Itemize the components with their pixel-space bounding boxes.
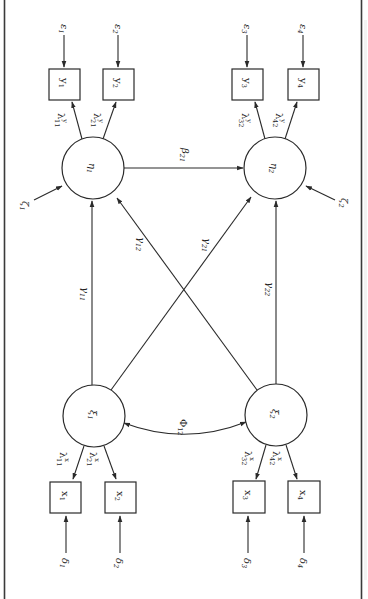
svg-text:λx21: λx21 bbox=[85, 452, 101, 466]
svg-text:δ2: δ2 bbox=[112, 558, 125, 568]
label-lambda-x11: λx11 bbox=[55, 452, 71, 466]
arrow-eta1-y1 bbox=[72, 102, 82, 139]
label-lambda-y11: λy11 bbox=[53, 113, 69, 127]
label-d1: δ1 bbox=[58, 558, 71, 568]
label-d3: δ3 bbox=[240, 558, 253, 568]
error-arrows-epsilon bbox=[64, 35, 303, 67]
arrow-xi2-x3 bbox=[256, 445, 266, 479]
arrow-zeta1-eta1 bbox=[34, 186, 62, 200]
label-lambda-y42: λy42 bbox=[271, 113, 287, 127]
structural-gamma-arrows bbox=[92, 197, 276, 390]
arrow-gamma12 bbox=[117, 198, 257, 390]
caption-ghost-strip bbox=[364, 20, 367, 580]
label-d2: δ2 bbox=[112, 558, 125, 568]
svg-text:γ21: γ21 bbox=[200, 238, 213, 252]
arrow-xi1-x2 bbox=[104, 446, 116, 479]
label-lambda-x32: λx32 bbox=[240, 451, 256, 465]
sem-path-diagram: ε1 ε2 ε3 ε4 y1 y2 y3 y4 λy11 λy21 λy32 λ… bbox=[0, 0, 368, 599]
svg-text:Φ12: Φ12 bbox=[176, 419, 189, 435]
svg-text:ζ2: ζ2 bbox=[337, 198, 350, 208]
svg-text:β21: β21 bbox=[178, 147, 191, 162]
svg-text:λy42: λy42 bbox=[271, 113, 287, 127]
arrow-xi2-x4 bbox=[286, 445, 297, 479]
svg-text:γ22: γ22 bbox=[263, 282, 276, 296]
label-lambda-x42: λx42 bbox=[268, 451, 284, 465]
svg-text:ε1: ε1 bbox=[57, 24, 70, 34]
label-d4: δ4 bbox=[296, 558, 309, 568]
svg-text:λy32: λy32 bbox=[237, 113, 253, 127]
svg-text:λx42: λx42 bbox=[268, 451, 284, 465]
label-eps4: ε4 bbox=[296, 24, 309, 34]
svg-text:λy11: λy11 bbox=[53, 113, 69, 127]
label-zeta2: ζ2 bbox=[337, 198, 350, 208]
label-beta21: β21 bbox=[178, 147, 191, 162]
svg-text:δ1: δ1 bbox=[58, 558, 71, 568]
svg-text:λx11: λx11 bbox=[55, 452, 71, 466]
label-gamma21: γ21 bbox=[200, 238, 213, 252]
arrow-gamma21 bbox=[111, 197, 251, 390]
svg-text:ε2: ε2 bbox=[111, 24, 124, 34]
svg-text:δ4: δ4 bbox=[296, 558, 309, 568]
svg-text:λy21: λy21 bbox=[89, 113, 105, 127]
label-eps3: ε3 bbox=[240, 24, 253, 34]
label-gamma11: γ11 bbox=[78, 287, 91, 301]
loading-arrows-x bbox=[73, 445, 297, 479]
arrow-xi1-x1 bbox=[73, 446, 84, 479]
label-eps1: ε1 bbox=[57, 24, 70, 34]
svg-text:γ11: γ11 bbox=[78, 287, 91, 301]
label-eps2: ε2 bbox=[111, 24, 124, 34]
arrow-eta2-y3 bbox=[255, 102, 265, 139]
label-lambda-y21: λy21 bbox=[89, 113, 105, 127]
label-gamma12: γ12 bbox=[134, 237, 147, 251]
svg-text:λx32: λx32 bbox=[240, 451, 256, 465]
error-arrows-delta bbox=[66, 516, 304, 553]
label-gamma22: γ22 bbox=[263, 282, 276, 296]
svg-text:ζ1: ζ1 bbox=[18, 201, 31, 211]
label-phi12: Φ12 bbox=[176, 419, 189, 435]
svg-text:ε4: ε4 bbox=[296, 24, 309, 34]
label-lambda-y32: λy32 bbox=[237, 113, 253, 127]
label-zeta1: ζ1 bbox=[18, 201, 31, 211]
svg-text:γ12: γ12 bbox=[134, 237, 147, 251]
svg-text:ε3: ε3 bbox=[240, 24, 253, 34]
arrow-zeta2-eta2 bbox=[306, 186, 335, 200]
label-lambda-x21: λx21 bbox=[85, 452, 101, 466]
svg-text:δ3: δ3 bbox=[240, 558, 253, 568]
